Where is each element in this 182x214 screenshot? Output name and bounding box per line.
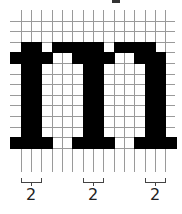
glyph-filled-run — [134, 137, 177, 149]
grid-horizontal-line — [10, 31, 175, 32]
bracket-center-tick — [155, 183, 156, 186]
stem-width-label-2: 2 — [81, 187, 105, 203]
glyph-grid-diagram: 2 2 2 — [0, 0, 182, 214]
glyph-filled-run — [10, 137, 53, 149]
cropped-caption-mark — [112, 0, 120, 3]
stem-width-label-3: 2 — [143, 187, 167, 203]
bracket-center-tick — [31, 183, 32, 186]
grid-horizontal-line — [10, 21, 175, 22]
stem-width-label-1: 2 — [19, 187, 43, 203]
bracket-center-tick — [93, 183, 94, 186]
glyph-filled-run — [72, 137, 115, 149]
